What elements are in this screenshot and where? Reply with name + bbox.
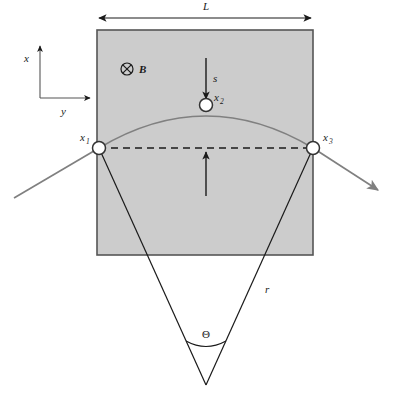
physics-diagram-figure: L x y B r Θ xyxy=(0,0,394,404)
angle-label: Θ xyxy=(202,328,210,340)
point-label-x1-group: x 1 xyxy=(79,131,90,146)
point-label-x1-sub: 1 xyxy=(86,137,90,146)
diagram-canvas: L x y B r Θ xyxy=(0,0,394,404)
point-label-x2-sub: 2 xyxy=(220,97,224,106)
coordinate-axes-group: x y xyxy=(23,46,90,117)
b-field-label: B xyxy=(138,63,146,75)
radius-label: r xyxy=(265,283,270,295)
point-marker-x2 xyxy=(200,99,213,112)
y-axis-label: y xyxy=(60,105,66,117)
point-label-x1-base: x xyxy=(79,131,85,143)
x-axis-label: x xyxy=(23,52,29,64)
point-label-x3-sub: 3 xyxy=(328,137,333,146)
point-marker-x3 xyxy=(307,142,320,155)
sagitta-label: s xyxy=(213,72,217,84)
angle-arc xyxy=(186,341,226,347)
point-label-x3-group: x 3 xyxy=(322,131,333,146)
point-label-x3-base: x xyxy=(322,131,328,143)
point-label-x2-base: x xyxy=(213,91,219,103)
outgoing-trajectory xyxy=(313,148,378,190)
width-dimension-group: L xyxy=(99,0,311,18)
width-dimension-label: L xyxy=(202,0,209,12)
incoming-trajectory xyxy=(14,148,99,198)
point-marker-x1 xyxy=(93,142,106,155)
